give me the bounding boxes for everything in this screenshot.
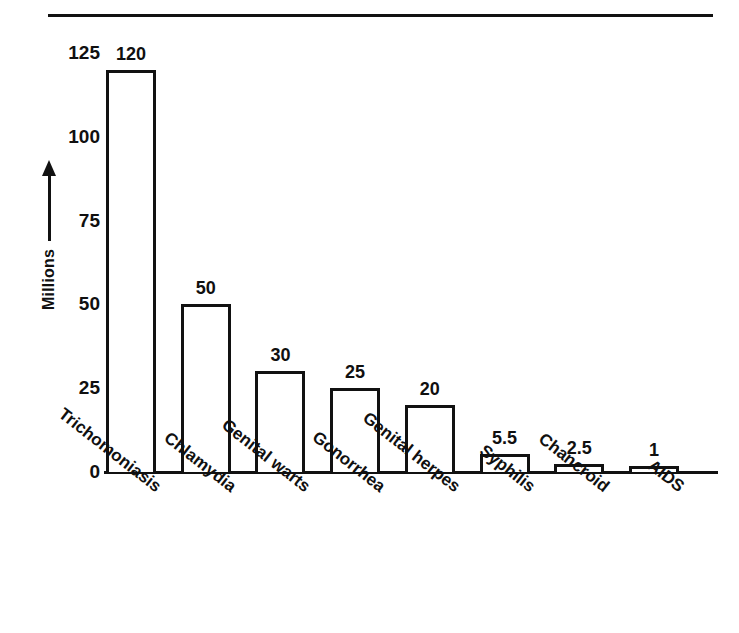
bar-value-label: 30	[241, 346, 319, 364]
y-tick-label: 100	[52, 127, 100, 146]
y-tick-label: 50	[52, 294, 100, 313]
bar-value-label: 5.5	[466, 429, 544, 447]
top-rule-divider	[48, 14, 713, 17]
y-tick-label: 75	[52, 211, 100, 230]
bar-chart: Millions 0255075100125 120503025205.52.5…	[0, 0, 739, 633]
bar-value-label: 20	[391, 380, 469, 398]
y-tick-label: 0	[52, 462, 100, 481]
y-axis-label-group: Millions	[29, 160, 69, 310]
bar-value-label: 50	[167, 279, 245, 297]
x-tick-label: AIDS	[644, 456, 688, 497]
bar-value-label: 120	[92, 45, 170, 63]
y-tick-label: 25	[52, 378, 100, 397]
bar-value-label: 25	[316, 363, 394, 381]
bar-value-label: 1	[615, 441, 693, 459]
bar	[106, 70, 156, 472]
